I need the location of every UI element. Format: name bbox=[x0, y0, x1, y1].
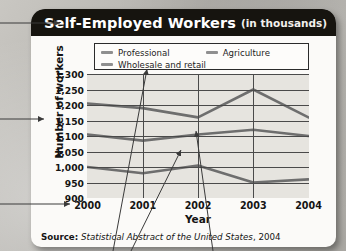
gridline-vertical bbox=[198, 74, 199, 198]
y-tick-label: 950 bbox=[65, 177, 84, 188]
x-tick-label: 2000 bbox=[74, 200, 101, 211]
chart-legend: Professional Agriculture Wholesale and r… bbox=[94, 43, 309, 70]
source-label: Source: bbox=[41, 232, 78, 242]
legend-row-2: Wholesale and retail bbox=[101, 59, 308, 70]
x-tick-label: 2001 bbox=[129, 200, 156, 211]
chart-title-units: (in thousands) bbox=[241, 17, 327, 29]
y-axis-ticks: 1,3001,2501,2001,1501,1001,0501,00095090… bbox=[31, 74, 84, 198]
chart-title: Self-Employed Workers bbox=[44, 15, 236, 31]
chart-title-bar: Self-Employed Workers (in thousands) bbox=[31, 9, 336, 36]
chart-card: Self-Employed Workers (in thousands) Pro… bbox=[31, 9, 336, 247]
legend-row-1: Professional Agriculture bbox=[101, 47, 308, 58]
y-tick-label: 1,300 bbox=[55, 69, 84, 80]
gridline-vertical bbox=[253, 74, 254, 198]
x-axis-title: Year bbox=[87, 213, 309, 225]
plot-canvas bbox=[87, 74, 309, 198]
legend-label-wholesale-and-retail: Wholesale and retail bbox=[118, 60, 206, 70]
chart-body: Professional Agriculture Wholesale and r… bbox=[31, 36, 336, 247]
y-tick-label: 1,200 bbox=[55, 100, 84, 111]
x-tick-label: 2004 bbox=[295, 200, 322, 211]
legend-label-agriculture: Agriculture bbox=[223, 48, 270, 58]
legend-item-agriculture: Agriculture bbox=[206, 48, 270, 58]
legend-swatch-wholesale-and-retail bbox=[101, 63, 113, 67]
y-tick-label: 1,000 bbox=[55, 162, 84, 173]
x-axis-ticks: 20002001200220032004 bbox=[87, 200, 309, 214]
legend-swatch-agriculture bbox=[206, 51, 218, 55]
y-tick-label: 1,150 bbox=[55, 115, 84, 126]
legend-label-professional: Professional bbox=[118, 48, 170, 58]
plot-area bbox=[87, 74, 309, 198]
source-line: Source: Statistical Abstract of the Unit… bbox=[41, 232, 281, 242]
legend-item-wholesale-and-retail: Wholesale and retail bbox=[101, 60, 206, 70]
x-tick-label: 2003 bbox=[240, 200, 267, 211]
legend-item-professional: Professional bbox=[101, 48, 170, 58]
source-title: Statistical Abstract of the United State… bbox=[81, 232, 253, 242]
legend-swatch-professional bbox=[101, 51, 113, 55]
y-tick-label: 1,050 bbox=[55, 146, 84, 157]
y-tick-label: 1,250 bbox=[55, 84, 84, 95]
y-tick-label: 1,100 bbox=[55, 131, 84, 142]
x-tick-label: 2002 bbox=[185, 200, 212, 211]
source-year: , 2004 bbox=[253, 232, 281, 242]
gridline-vertical bbox=[143, 74, 144, 198]
